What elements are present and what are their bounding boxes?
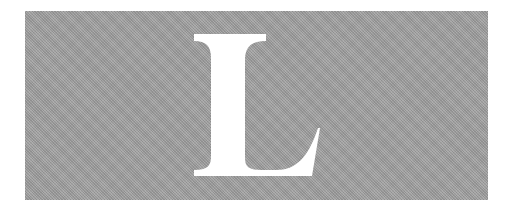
letter-l-glyph [0,0,514,216]
drop-cap-letter: L [0,0,514,216]
